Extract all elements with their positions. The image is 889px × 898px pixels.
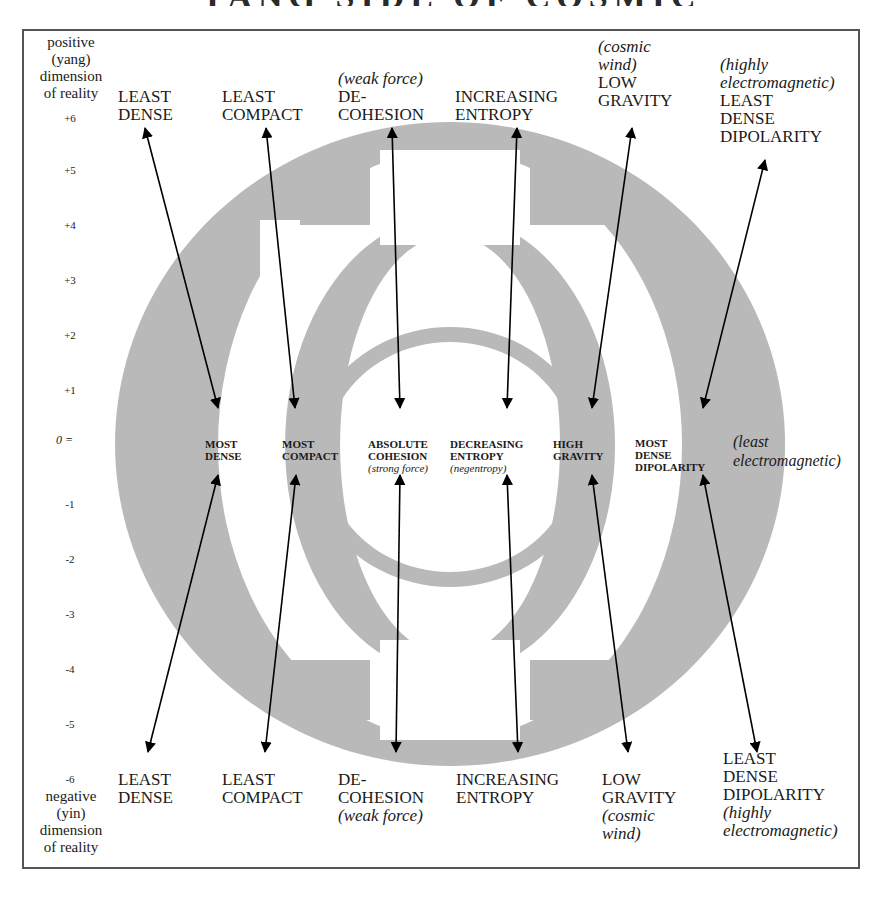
axis-text: of reality: [26, 839, 116, 856]
axis-positive-label: positive (yang) dimension of reality: [26, 34, 116, 102]
tick-minus1: -1: [50, 498, 90, 510]
top-label-least-compact: LEASTCOMPACT: [222, 88, 303, 124]
top-label-least-dense-dipolarity: (highlyelectromagnetic) LEASTDENSEDIPOLA…: [720, 56, 835, 146]
mid-label-decreasing-entropy: DECREASINGENTROPY (negentropy): [450, 438, 523, 474]
tick-plus2: +2: [50, 329, 90, 341]
bottom-label-increasing-entropy: INCREASINGENTROPY: [456, 771, 559, 807]
bottom-label-least-compact: LEASTCOMPACT: [222, 771, 303, 807]
mid-label-absolute-cohesion: ABSOLUTECOHESION (strong force): [368, 438, 428, 474]
tick-zero: 0 =: [56, 433, 73, 448]
bottom-label-low-gravity: LOWGRAVITY (cosmicwind): [602, 771, 676, 843]
top-label-low-gravity: (cosmicwind) LOWGRAVITY: [598, 38, 672, 110]
axis-text: positive: [26, 34, 116, 51]
axis-text: negative: [26, 788, 116, 805]
tick-minus5: -5: [50, 718, 90, 730]
tick-plus6: +6: [50, 112, 90, 124]
mid-label-most-compact: MOSTCOMPACT: [282, 438, 338, 462]
tick-plus4: +4: [50, 219, 90, 231]
tick-minus3: -3: [50, 608, 90, 620]
top-label-least-dense: LEASTDENSE: [118, 88, 173, 124]
tick-minus4: -4: [50, 663, 90, 675]
tick-plus1: +1: [50, 384, 90, 396]
mid-label-high-gravity: HIGHGRAVITY: [553, 438, 604, 462]
axis-text: (yin): [26, 805, 116, 822]
bottom-label-least-dense: LEASTDENSE: [118, 771, 173, 807]
axis-text: of reality: [26, 85, 116, 102]
tick-plus3: +3: [50, 274, 90, 286]
tick-minus6: -6: [50, 773, 90, 785]
axis-text: dimension: [26, 822, 116, 839]
tick-plus5: +5: [50, 164, 90, 176]
axis-negative-label: negative (yin) dimension of reality: [26, 788, 116, 856]
top-label-de-cohesion: (weak force) DE-COHESION: [338, 70, 424, 124]
mid-side-note: (least electromagnetic): [733, 432, 841, 470]
mid-label-most-dense: MOSTDENSE: [205, 438, 242, 462]
mid-label-most-dense-dipolarity: MOSTDENSEDIPOLARITY: [635, 437, 705, 473]
bottom-label-de-cohesion: DE-COHESION (weak force): [338, 771, 424, 825]
top-label-increasing-entropy: INCREASINGENTROPY: [455, 88, 558, 124]
axis-text: dimension: [26, 68, 116, 85]
bottom-label-least-dense-dipolarity: LEASTDENSEDIPOLARITY (highlyelectromagne…: [723, 750, 838, 840]
axis-text: (yang): [26, 51, 116, 68]
tick-minus2: -2: [50, 553, 90, 565]
